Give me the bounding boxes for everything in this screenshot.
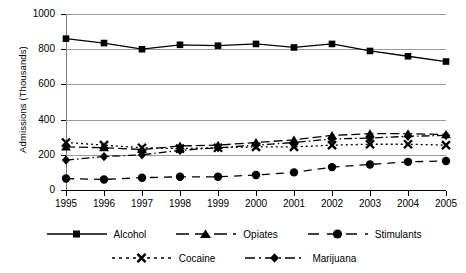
legend-label-opiates: Opiates (243, 229, 277, 240)
datapoint-stimulants-2005 (442, 157, 450, 165)
datapoint-alcohol-2003 (367, 48, 374, 55)
datapoint-stimulants-1995 (62, 174, 70, 182)
datapoint-alcohol-1997 (139, 46, 146, 53)
datapoint-marijuana-2001 (290, 138, 298, 147)
legend-label-alcohol: Alcohol (114, 229, 147, 240)
series-alcohol (63, 35, 450, 64)
datapoint-stimulants-2002 (328, 163, 336, 171)
datapoint-marijuana-1995 (62, 155, 70, 164)
datapoint-alcohol-2000 (253, 41, 260, 48)
legend-label-stimulants: Stimulants (375, 229, 422, 240)
legend-row-2: Cocaine Marijuana (0, 246, 466, 270)
dash-dot-line-diamond-marker-icon (243, 250, 307, 266)
datapoint-alcohol-2001 (291, 44, 298, 51)
datapoint-alcohol-2005 (443, 58, 450, 65)
datapoint-marijuana-2005 (442, 131, 450, 140)
line-chart-figure: Admissions (Thousands) 1000 800 600 400 … (0, 0, 466, 273)
datapoint-cocaine-2005 (442, 141, 450, 149)
dashed-line-triangle-marker-icon (174, 226, 238, 242)
series-stimulants (62, 157, 450, 184)
legend-item-opiates[interactable]: Opiates (174, 226, 277, 242)
solid-line-square-marker-icon (45, 226, 109, 242)
datapoint-stimulants-1996 (100, 175, 108, 183)
datapoint-alcohol-1998 (177, 42, 184, 49)
datapoint-alcohol-1996 (101, 40, 108, 47)
legend-label-marijuana: Marijuana (312, 253, 356, 264)
legend: Alcohol Opiates Stimulants (0, 222, 466, 273)
legend-item-stimulants[interactable]: Stimulants (306, 226, 422, 242)
datapoint-alcohol-2004 (405, 53, 412, 60)
long-dash-line-circle-marker-icon (306, 226, 370, 242)
legend-item-alcohol[interactable]: Alcohol (45, 226, 147, 242)
datapoint-stimulants-1997 (138, 173, 146, 181)
datapoint-stimulants-1998 (176, 173, 184, 181)
datapoint-alcohol-1995 (63, 35, 70, 42)
dotted-line-x-marker-icon (110, 250, 174, 266)
datapoint-stimulants-2001 (290, 168, 298, 176)
legend-item-cocaine[interactable]: Cocaine (110, 250, 216, 266)
legend-item-marijuana[interactable]: Marijuana (243, 250, 356, 266)
datapoint-stimulants-2004 (404, 158, 412, 166)
datapoint-stimulants-1999 (214, 173, 222, 181)
datapoint-alcohol-2002 (329, 41, 336, 48)
datapoint-marijuana-1996 (100, 152, 108, 161)
legend-row-1: Alcohol Opiates Stimulants (0, 222, 466, 246)
datapoint-stimulants-2000 (252, 171, 260, 179)
legend-label-cocaine: Cocaine (179, 253, 216, 264)
datapoint-stimulants-2003 (366, 160, 374, 168)
datapoint-alcohol-1999 (215, 42, 222, 49)
series-marijuana (62, 131, 450, 165)
